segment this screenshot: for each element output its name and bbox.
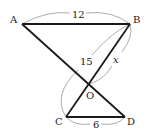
measure-cd: 6 (93, 119, 99, 130)
geometry-diagram: A B O C D 12 15 x 6 (0, 0, 148, 132)
point-label-b: B (133, 14, 140, 25)
point-label-d: D (127, 116, 135, 127)
measure-ob: x (113, 54, 119, 65)
segment-ad (22, 24, 125, 117)
point-label-o: O (86, 90, 94, 101)
point-label-c: C (55, 116, 63, 127)
segment-bc (66, 24, 130, 117)
point-label-a: A (9, 14, 18, 25)
measure-cb: 15 (80, 56, 93, 67)
measure-ab: 12 (72, 9, 85, 20)
